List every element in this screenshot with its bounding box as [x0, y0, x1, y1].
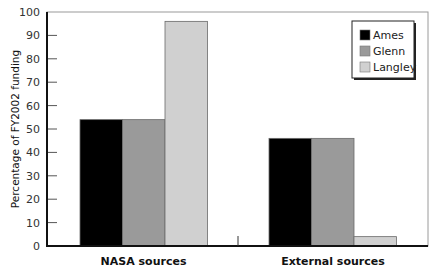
bar-langley-nasa [165, 21, 208, 246]
bar-langley-external [354, 237, 397, 246]
y-tick-label: 60 [26, 100, 40, 113]
legend-label-langley: Langley [373, 61, 417, 74]
x-category-label: External sources [281, 255, 385, 268]
bar-glenn-external [312, 138, 355, 246]
y-tick-label: 40 [26, 146, 40, 159]
legend: AmesGlennLangley [352, 21, 417, 80]
y-tick-label: 30 [26, 170, 40, 183]
y-tick-label: 70 [26, 76, 40, 89]
y-tick-label: 50 [26, 123, 40, 136]
bar-chart: 0102030405060708090100 NASA sourcesExter… [0, 0, 438, 274]
legend-label-glenn: Glenn [373, 45, 405, 58]
y-tick-label: 20 [26, 193, 40, 206]
legend-label-ames: Ames [373, 29, 404, 42]
legend-swatch-ames [360, 30, 370, 40]
bar-ames-external [269, 138, 312, 246]
bars-group [80, 21, 397, 246]
legend-swatch-langley [360, 62, 370, 72]
y-tick-label: 10 [26, 217, 40, 230]
x-axis-labels: NASA sourcesExternal sources [101, 255, 386, 268]
y-tick-label: 80 [26, 53, 40, 66]
y-axis-title: Percentage of FY2002 funding [9, 50, 21, 208]
x-category-label: NASA sources [101, 255, 187, 268]
y-tick-label: 90 [26, 29, 40, 42]
y-axis: 0102030405060708090100 [19, 6, 57, 253]
y-tick-label: 0 [33, 240, 40, 253]
bar-glenn-nasa [123, 120, 166, 246]
bar-ames-nasa [80, 120, 123, 246]
y-tick-label: 100 [19, 6, 40, 19]
legend-swatch-glenn [360, 46, 370, 56]
